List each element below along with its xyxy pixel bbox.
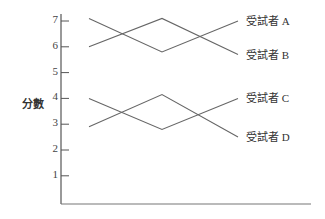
y-axis-label: 分數 xyxy=(22,95,44,111)
y-tick-label: 2 xyxy=(46,142,58,154)
series-line xyxy=(89,18,238,54)
series-line xyxy=(89,18,238,52)
y-tick-label: 7 xyxy=(46,13,58,25)
series-label: 受試者 B xyxy=(246,46,289,62)
series-line xyxy=(89,95,238,138)
series-label: 受試者 A xyxy=(246,12,290,28)
y-tick-label: 6 xyxy=(46,39,58,51)
series-label: 受試者 D xyxy=(246,128,290,144)
y-tick-label: 5 xyxy=(46,65,58,77)
y-tick-label: 1 xyxy=(46,168,58,180)
line-chart xyxy=(0,0,325,219)
series-lines xyxy=(89,18,238,137)
y-tick-label: 3 xyxy=(46,116,58,128)
y-tick-label: 4 xyxy=(46,90,58,102)
series-label: 受試者 C xyxy=(246,89,289,105)
